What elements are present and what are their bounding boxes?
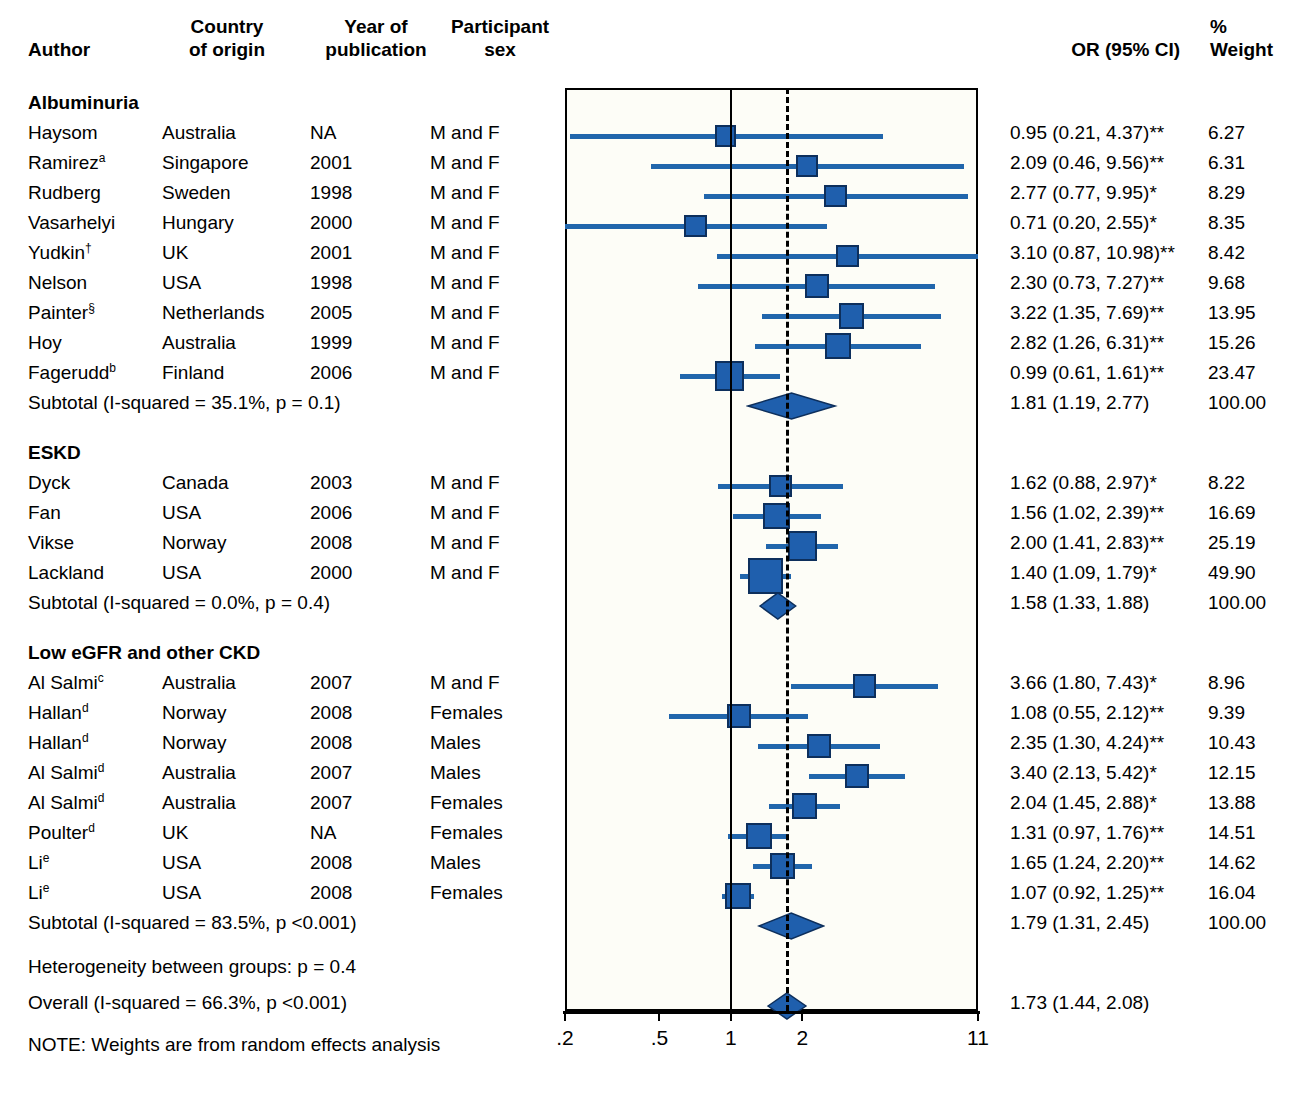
cell-country: Finland bbox=[162, 362, 312, 384]
cell-or: 2.04 (1.45, 2.88)* bbox=[1010, 792, 1180, 814]
cell-year: 2006 bbox=[310, 502, 430, 524]
cell-or: 2.35 (1.30, 4.24)** bbox=[1010, 732, 1180, 754]
cell-year: NA bbox=[310, 122, 430, 144]
cell-subtotal-weight: 100.00 bbox=[1208, 592, 1298, 614]
group-title: ESKD bbox=[28, 442, 81, 464]
cell-weight: 12.15 bbox=[1208, 762, 1298, 784]
cell-weight: 13.95 bbox=[1208, 302, 1298, 324]
forest-plot-figure: Author Country of origin Year of publica… bbox=[0, 0, 1310, 1099]
x-tick-label: .5 bbox=[651, 1026, 669, 1050]
cell-country: Australia bbox=[162, 762, 312, 784]
cell-subtotal-label: Subtotal (I-squared = 35.1%, p = 0.1) bbox=[28, 392, 168, 414]
cell-weight: 14.62 bbox=[1208, 852, 1298, 874]
heterogeneity-between-groups: Heterogeneity between groups: p = 0.4 bbox=[28, 956, 356, 978]
cell-year: 2008 bbox=[310, 852, 430, 874]
cell-author: Vasarhelyi bbox=[28, 212, 168, 234]
table-row: Al SalmidAustralia2007Males3.40 (2.13, 5… bbox=[0, 762, 1310, 792]
cell-country: Singapore bbox=[162, 152, 312, 174]
cell-author: Rudberg bbox=[28, 182, 168, 204]
cell-weight: 8.42 bbox=[1208, 242, 1298, 264]
x-tick-label: .2 bbox=[556, 1026, 574, 1050]
cell-country: USA bbox=[162, 502, 312, 524]
cell-subtotal-or: 1.81 (1.19, 2.77) bbox=[1010, 392, 1180, 414]
cell-year: 2008 bbox=[310, 532, 430, 554]
table-row: LacklandUSA2000M and F1.40 (1.09, 1.79)*… bbox=[0, 562, 1310, 592]
cell-year: 1998 bbox=[310, 182, 430, 204]
cell-or: 1.08 (0.55, 2.12)** bbox=[1010, 702, 1180, 724]
cell-country: USA bbox=[162, 562, 312, 584]
cell-weight: 9.39 bbox=[1208, 702, 1298, 724]
x-tick-label: 2 bbox=[796, 1026, 808, 1050]
cell-author: Poulterd bbox=[28, 822, 168, 844]
table-row: HallandNorway2008Males2.35 (1.30, 4.24)*… bbox=[0, 732, 1310, 762]
cell-weight: 16.04 bbox=[1208, 882, 1298, 904]
overall-row: Overall (I-squared = 66.3%, p <0.001)1.7… bbox=[0, 992, 1310, 1022]
pooled-effect-line bbox=[786, 88, 789, 1011]
cell-author: Vikse bbox=[28, 532, 168, 554]
cell-weight: 6.27 bbox=[1208, 122, 1298, 144]
cell-or: 0.71 (0.20, 2.55)* bbox=[1010, 212, 1180, 234]
cell-sex: M and F bbox=[430, 242, 580, 264]
effect-estimate-box bbox=[807, 734, 831, 758]
cell-weight: 8.22 bbox=[1208, 472, 1298, 494]
effect-estimate-box bbox=[725, 883, 751, 909]
cell-sex: Females bbox=[430, 702, 580, 724]
cell-country: USA bbox=[162, 882, 312, 904]
cell-country: Australia bbox=[162, 792, 312, 814]
effect-estimate-box bbox=[770, 853, 796, 879]
cell-year: 2008 bbox=[310, 702, 430, 724]
cell-country: Norway bbox=[162, 702, 312, 724]
cell-weight: 49.90 bbox=[1208, 562, 1298, 584]
cell-or: 1.31 (0.97, 1.76)** bbox=[1010, 822, 1180, 844]
subtotal-row: Subtotal (I-squared = 0.0%, p = 0.4)1.58… bbox=[0, 592, 1310, 622]
cell-sex: M and F bbox=[430, 502, 580, 524]
x-tick bbox=[801, 1012, 803, 1021]
cell-or: 1.65 (1.24, 2.20)** bbox=[1010, 852, 1180, 874]
cell-country: USA bbox=[162, 852, 312, 874]
cell-author: Dyck bbox=[28, 472, 168, 494]
cell-or: 0.95 (0.21, 4.37)** bbox=[1010, 122, 1180, 144]
table-row: DyckCanada2003M and F1.62 (0.88, 2.97)*8… bbox=[0, 472, 1310, 502]
cell-country: USA bbox=[162, 272, 312, 294]
cell-author: Lackland bbox=[28, 562, 168, 584]
cell-author: Fan bbox=[28, 502, 168, 524]
table-row: LieUSA2008Males1.65 (1.24, 2.20)**14.62 bbox=[0, 852, 1310, 882]
cell-weight: 8.35 bbox=[1208, 212, 1298, 234]
cell-subtotal-or: 1.58 (1.33, 1.88) bbox=[1010, 592, 1180, 614]
null-effect-line bbox=[730, 88, 732, 1011]
cell-sex: M and F bbox=[430, 152, 580, 174]
cell-or: 1.40 (1.09, 1.79)* bbox=[1010, 562, 1180, 584]
cell-sex: M and F bbox=[430, 302, 580, 324]
cell-year: 2007 bbox=[310, 762, 430, 784]
cell-weight: 8.96 bbox=[1208, 672, 1298, 694]
cell-sex: Males bbox=[430, 852, 580, 874]
cell-sex: Females bbox=[430, 882, 580, 904]
table-row: FageruddbFinland2006M and F0.99 (0.61, 1… bbox=[0, 362, 1310, 392]
cell-weight: 16.69 bbox=[1208, 502, 1298, 524]
cell-weight: 15.26 bbox=[1208, 332, 1298, 354]
cell-year: 2000 bbox=[310, 562, 430, 584]
subtotal-row: Subtotal (I-squared = 83.5%, p <0.001)1.… bbox=[0, 912, 1310, 942]
effect-estimate-box bbox=[839, 303, 865, 329]
cell-author: Painter§ bbox=[28, 302, 168, 324]
weights-note: NOTE: Weights are from random effects an… bbox=[28, 1034, 440, 1056]
cell-weight: 6.31 bbox=[1208, 152, 1298, 174]
x-tick bbox=[564, 1012, 566, 1021]
cell-subtotal-weight: 100.00 bbox=[1208, 912, 1298, 934]
cell-weight: 13.88 bbox=[1208, 792, 1298, 814]
cell-sex: M and F bbox=[430, 472, 580, 494]
cell-sex: M and F bbox=[430, 272, 580, 294]
x-axis-line bbox=[563, 1011, 980, 1014]
effect-estimate-box bbox=[824, 185, 847, 208]
cell-sex: M and F bbox=[430, 212, 580, 234]
pooled-estimate-diamond bbox=[757, 911, 826, 941]
cell-author: Lie bbox=[28, 882, 168, 904]
table-row: LieUSA2008Females1.07 (0.92, 1.25)**16.0… bbox=[0, 882, 1310, 912]
cell-country: UK bbox=[162, 242, 312, 264]
cell-country: Canada bbox=[162, 472, 312, 494]
effect-estimate-box bbox=[853, 674, 876, 697]
cell-weight: 23.47 bbox=[1208, 362, 1298, 384]
cell-year: 2007 bbox=[310, 792, 430, 814]
x-tick-label: 11 bbox=[967, 1026, 989, 1050]
cell-or: 2.09 (0.46, 9.56)** bbox=[1010, 152, 1180, 174]
